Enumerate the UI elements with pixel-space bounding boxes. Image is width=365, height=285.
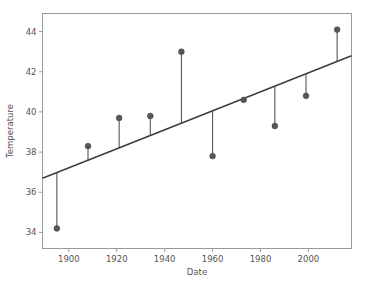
x-tick-label: 1940	[154, 254, 176, 264]
y-axis-title: Temperature	[5, 104, 15, 159]
y-tick-label: 40	[26, 107, 37, 117]
x-tick-label: 1900	[58, 254, 80, 264]
x-tick-label: 2000	[298, 254, 320, 264]
data-point	[116, 115, 122, 121]
temperature-scatter-chart: 343638404244 190019201940196019802000 Da…	[0, 0, 365, 285]
x-tick-label: 1960	[202, 254, 224, 264]
data-point	[85, 143, 91, 149]
y-tick-label: 44	[26, 27, 37, 37]
x-tick-label: 1920	[106, 254, 128, 264]
data-point	[147, 113, 153, 119]
y-axis-ticks: 343638404244	[26, 27, 43, 238]
y-tick-label: 42	[26, 67, 37, 77]
data-point	[334, 27, 340, 33]
plot-area-background	[42, 13, 352, 249]
chart-figure: 343638404244 190019201940196019802000 Da…	[0, 0, 365, 285]
data-point	[179, 49, 185, 55]
x-axis-ticks: 190019201940196019802000	[58, 249, 319, 264]
data-point	[210, 153, 216, 159]
data-point	[272, 123, 278, 129]
x-tick-label: 1980	[250, 254, 272, 264]
data-point	[54, 226, 60, 232]
x-axis-title: Date	[187, 267, 207, 277]
y-tick-label: 34	[26, 227, 37, 237]
data-point	[303, 93, 309, 99]
data-point	[241, 97, 247, 103]
y-tick-label: 38	[26, 147, 37, 157]
y-tick-label: 36	[26, 187, 37, 197]
